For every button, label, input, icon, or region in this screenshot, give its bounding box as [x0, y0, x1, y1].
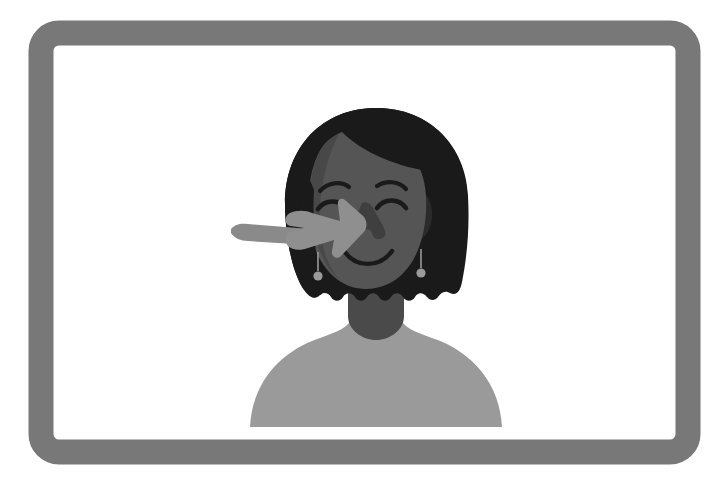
illustration-canvas: Woman wiping her eye Flat vector illustr…: [0, 0, 727, 477]
illustration-svg: [0, 0, 727, 477]
